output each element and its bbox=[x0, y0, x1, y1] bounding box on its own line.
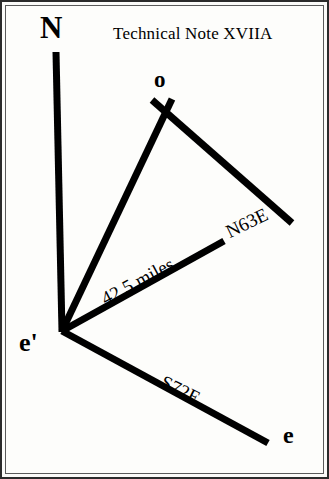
label-station-prime: e' bbox=[19, 330, 38, 356]
label-station-east: e bbox=[283, 423, 294, 447]
label-observed-point: o bbox=[154, 68, 166, 91]
north-axis-line bbox=[56, 52, 62, 332]
label-north: N bbox=[40, 12, 62, 43]
technical-note-figure: Technical Note XVIIA N o e' e N63E S72E … bbox=[0, 0, 329, 479]
ray-bearing-n63e bbox=[152, 100, 292, 223]
figure-title: Technical Note XVIIA bbox=[113, 25, 273, 42]
